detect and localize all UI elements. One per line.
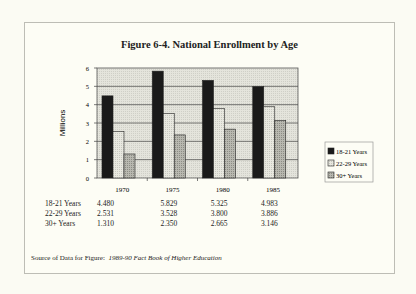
table-cell: 3.800 [211,209,228,218]
bar-30-years [225,129,236,178]
x-tick-label: 1975 [165,186,180,194]
bar-22-29-years [264,107,275,178]
bar-22-29-years [214,108,225,178]
bar-22-29-years [163,113,174,178]
bar-18-21-years [253,87,264,178]
bar-18-21-years [152,71,163,178]
bar-30-years [174,135,185,178]
y-tick-label: 5 [86,83,89,90]
table-cell: 4.983 [261,199,278,208]
x-tick-label: 1985 [266,186,281,194]
table-cell: 3.528 [160,209,177,218]
y-tick-label: 3 [86,120,89,127]
bar-18-21-years [102,96,113,178]
y-tick-label: 1 [86,156,89,163]
legend-swatch [328,160,334,166]
bar-30-years [275,120,286,178]
legend-swatch [328,148,334,154]
x-tick-label: 1970 [115,186,130,194]
table-row-label: 22-29 Years [45,209,81,218]
y-tick-label: 0 [86,175,89,182]
source-title: 1989-90 Fact Book of Higher Education [108,254,221,262]
legend: 18-21 Years22-29 Years30+ Years [325,142,373,182]
table-cell: 4.480 [97,199,114,208]
figure-frame: Figure 6-4. National Enrollment by Age 0… [24,22,395,274]
table-cell: 2.531 [97,209,114,218]
bar-30-years [124,154,135,178]
source-label: Source of Data for Figure: [31,254,105,262]
table-cell: 2.665 [211,219,228,228]
table-cell: 2.350 [160,219,177,228]
table-row-label: 18-21 Years [45,199,81,208]
y-tick-label: 4 [86,101,90,108]
bar-18-21-years [203,80,214,178]
table-row-label: 30+ Years [45,219,75,228]
table-cell: 5.829 [160,199,177,208]
bar-chart: 01234561970197519801985 Millions 18-21 Y… [25,23,396,275]
legend-label: 30+ Years [336,172,363,179]
source-note: Source of Data for Figure: 1989-90 Fact … [31,254,222,262]
y-axis-label: Millions [58,110,67,137]
table-cell: 5.325 [211,199,228,208]
legend-swatch [328,172,334,178]
y-tick-label: 2 [86,138,89,145]
bar-22-29-years [113,132,124,178]
legend-label: 22-29 Years [336,160,368,167]
y-tick-label: 6 [86,65,90,72]
legend-label: 18-21 Years [336,148,368,155]
table-cell: 1.310 [97,219,114,228]
x-tick-label: 1980 [216,186,231,194]
table-cell: 3.146 [261,219,278,228]
table-cell: 3.886 [261,209,278,218]
